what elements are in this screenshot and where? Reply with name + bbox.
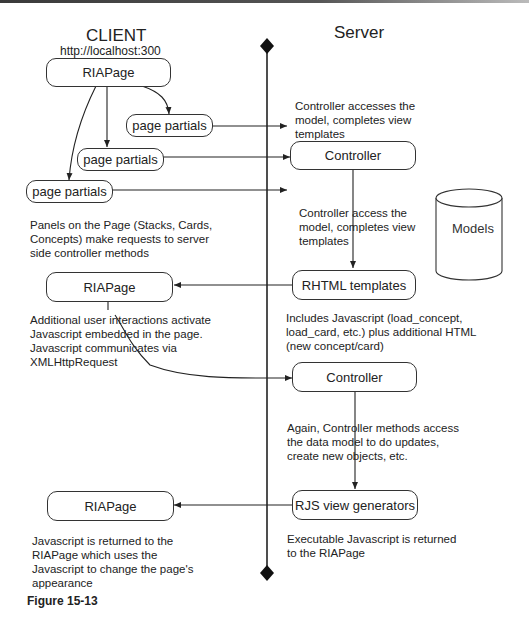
diagram-connectors: [0, 0, 529, 619]
models-label: Models: [452, 221, 494, 236]
client-url: http://localhost:300: [60, 44, 161, 58]
riapage-top-node: RIAPage: [46, 58, 171, 87]
riapage-mid-node: RIAPage: [46, 272, 173, 302]
again-controller-note: Again, Controller methods access the dat…: [287, 421, 459, 463]
includes-javascript-note: Includes Javascript (load_concept, load_…: [286, 311, 477, 353]
riapage-bottom-node: RIAPage: [47, 491, 174, 521]
client-title: CLIENT: [86, 26, 146, 46]
executable-javascript-note: Executable Javascript is returned to the…: [287, 532, 456, 560]
additional-interactions-note: Additional user interactions activate Ja…: [30, 313, 211, 369]
figure-label: Figure 15-13: [27, 594, 98, 608]
lifeline-top-diamond: [260, 38, 274, 54]
page-partials-node-1: page partials: [126, 114, 213, 137]
lifeline-bottom-diamond: [260, 565, 274, 581]
rjs-view-generators-node: RJS view generators: [292, 490, 418, 520]
rhtml-templates-node: RHTML templates: [292, 270, 416, 300]
controller-accesses-note-1: Controller accesses the model, completes…: [295, 99, 415, 141]
panels-note: Panels on the Page (Stacks, Cards, Conce…: [30, 218, 212, 260]
controller-node-1: Controller: [290, 141, 416, 170]
controller-accesses-note-2: Controller access the model, completes v…: [299, 206, 415, 248]
controller-node-2: Controller: [292, 362, 417, 392]
javascript-returned-note: Javascript is returned to the RIAPage wh…: [32, 534, 193, 590]
page-partials-node-3: page partials: [26, 180, 113, 203]
page-partials-node-2: page partials: [77, 148, 164, 171]
server-title: Server: [334, 23, 384, 43]
